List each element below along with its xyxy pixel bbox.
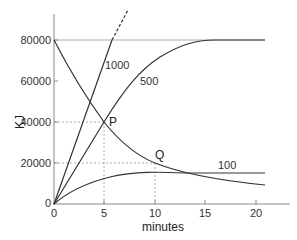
series-100-line [54,172,265,204]
point-q-label: Q [155,148,164,162]
x-tick-20: 20 [250,207,262,219]
y-tick-80000: 80000 [20,34,51,46]
x-axis-label: minutes [142,220,184,234]
point-p-label: P [109,115,117,129]
x-tick-15: 15 [199,207,211,219]
series-500-line [54,40,265,204]
y-axis-label: KJ [13,115,27,129]
y-tick-60000: 60000 [20,75,51,87]
series-500-label: 500 [140,75,158,87]
series-100-label: 100 [218,159,236,171]
chart: 80000 60000 40000 20000 0 0 5 10 15 20 K… [0,0,297,240]
y-tick-20000: 20000 [20,157,51,169]
guide-lines [54,122,155,204]
x-tick-0: 0 [51,207,57,219]
x-tick-5: 5 [101,207,107,219]
series-1000-label: 1000 [105,59,129,71]
x-tick-10: 10 [149,207,161,219]
series-1000-extension [112,10,128,40]
